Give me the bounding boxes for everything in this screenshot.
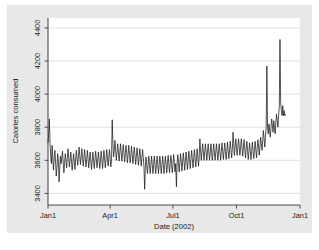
plot-area <box>48 18 300 205</box>
line-chart: 340036003800400042004400 Jan1Apr1Jul1Oct… <box>0 0 319 250</box>
y-axis-tick-labels: 340036003800400042004400 <box>33 20 42 202</box>
y-tick-label: 3800 <box>33 119 42 135</box>
x-tick-label: Jan1 <box>40 211 56 220</box>
x-axis-tick-labels: Jan1Apr1Jul1Oct1Jan1 <box>40 211 308 220</box>
y-tick-label: 4200 <box>33 53 42 69</box>
x-tick-label: Oct1 <box>229 211 245 220</box>
y-tick-label: 3600 <box>33 152 42 168</box>
x-tick-label: Jul1 <box>166 211 180 220</box>
y-tick-label: 4400 <box>33 20 42 36</box>
x-axis-title: Date (2002) <box>154 222 195 231</box>
x-tick-label: Apr1 <box>102 211 118 220</box>
x-tick-label: Jan1 <box>292 211 308 220</box>
y-tick-label: 3400 <box>33 185 42 201</box>
y-tick-label: 4000 <box>33 86 42 102</box>
y-axis-title: Calories consumed <box>11 79 20 144</box>
chart-container: 340036003800400042004400 Jan1Apr1Jul1Oct… <box>0 0 319 250</box>
